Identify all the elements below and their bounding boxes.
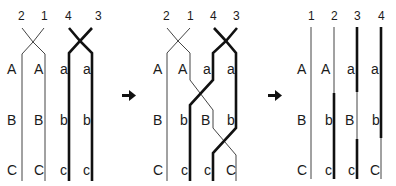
chromatid-2 [22, 28, 33, 181]
right-arrow-icon [268, 90, 282, 101]
chromatid-1 [178, 28, 236, 181]
allele-label: A [178, 61, 188, 77]
allele-label: C [370, 162, 380, 178]
allele-label: B [7, 112, 16, 128]
allele-label: A [321, 61, 331, 77]
allele-label: c [181, 162, 188, 178]
panel-3-after-crossover: 1 2 3 4 A A a a B b B b C c c C [297, 9, 385, 179]
chromatid-3 [80, 28, 92, 181]
allele-label: C [34, 162, 44, 178]
allele-label: C [226, 162, 236, 178]
strand-number: 4 [210, 9, 217, 23]
allele-label: b [372, 112, 380, 128]
chromatid-4 [69, 28, 80, 181]
strand-number: 2 [331, 9, 338, 23]
strand-number: 2 [163, 9, 170, 23]
allele-label: B [345, 112, 354, 128]
allele-label: B [201, 112, 210, 128]
strand-number: 1 [41, 9, 48, 23]
panel-2-during-crossover: 2 1 4 3 A A a a B b B b C c c C [153, 9, 240, 181]
allele-label: a [203, 61, 211, 77]
strand-number: 4 [378, 9, 385, 23]
allele-label: C [153, 162, 163, 178]
strand-number: 4 [65, 9, 72, 23]
allele-label: b [60, 112, 68, 128]
chromatid-2 [167, 28, 178, 181]
allele-label: A [34, 61, 44, 77]
allele-label: c [325, 162, 332, 178]
allele-label: B [297, 112, 306, 128]
allele-label: a [60, 61, 68, 77]
strand-number: 3 [233, 9, 240, 23]
panel-1-before-crossover: 2 1 4 3 A A a a B B b b C C c c [7, 9, 102, 181]
allele-label: a [347, 61, 355, 77]
allele-label: c [60, 162, 67, 178]
allele-label: a [371, 61, 379, 77]
allele-label: C [7, 162, 17, 178]
strand-number: 3 [354, 9, 361, 23]
allele-label: a [227, 61, 235, 77]
allele-label: b [83, 112, 91, 128]
allele-label: a [83, 61, 91, 77]
strand-number: 1 [308, 9, 315, 23]
allele-label: c [348, 162, 355, 178]
chromatid-4 [190, 28, 226, 181]
right-arrow-icon [122, 90, 136, 101]
allele-label: B [153, 112, 162, 128]
strand-number: 2 [18, 9, 25, 23]
strand-number: 1 [187, 9, 194, 23]
allele-label: C [297, 162, 307, 178]
allele-label: b [325, 112, 333, 128]
allele-label: B [34, 112, 43, 128]
crossover-diagram: 2 1 4 3 A A a a B B b b C C c c 2 1 4 3 [0, 0, 396, 186]
strand-number: 3 [95, 9, 102, 23]
allele-label: A [7, 61, 17, 77]
chromatid-1 [33, 28, 45, 181]
allele-label: c [204, 162, 211, 178]
allele-label: b [227, 112, 235, 128]
allele-label: c [83, 162, 90, 178]
allele-label: A [153, 61, 163, 77]
allele-label: b [180, 112, 188, 128]
allele-label: A [297, 61, 307, 77]
